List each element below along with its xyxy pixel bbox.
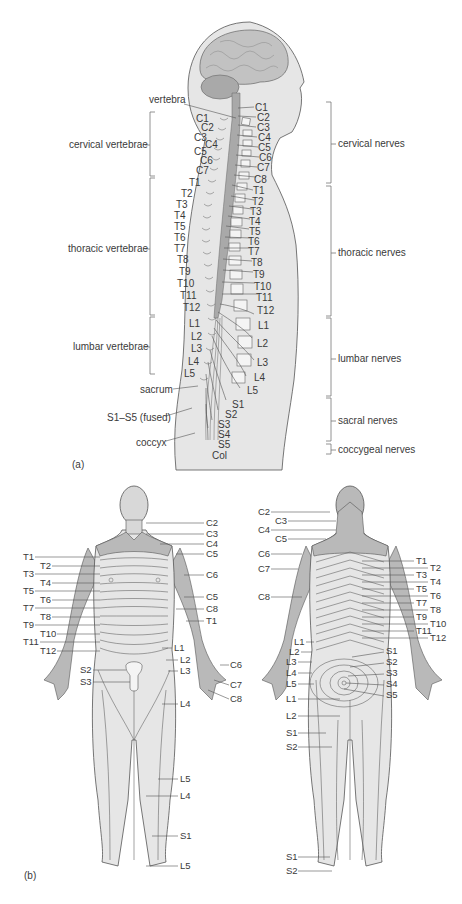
svg-text:L2: L2: [257, 338, 269, 349]
svg-text:T12: T12: [40, 645, 56, 656]
svg-text:T1: T1: [23, 551, 34, 562]
svg-text:S1: S1: [386, 645, 398, 656]
svg-text:T6: T6: [174, 232, 186, 243]
svg-text:T6: T6: [40, 594, 51, 605]
svg-text:C8: C8: [254, 174, 267, 185]
svg-text:L2: L2: [180, 654, 191, 665]
fused-sacrum-label: S1–S5 (fused): [107, 412, 171, 423]
svg-text:T10: T10: [40, 628, 56, 639]
svg-text:T11: T11: [256, 292, 273, 303]
dermatome-figure: C1C2 C3C4 C5C6 C7T1 T2T3 T4T5 T6T7 T8T9 …: [0, 0, 462, 904]
svg-text:L5: L5: [180, 860, 191, 871]
cervical-nerves-label: cervical nerves: [338, 138, 405, 149]
thoracic-nerves-label: thoracic nerves: [338, 247, 406, 258]
svg-text:T7: T7: [23, 602, 34, 613]
svg-text:T8: T8: [430, 604, 441, 615]
svg-text:L2: L2: [191, 331, 203, 342]
panel-b-back-view: C2 C3 C4 C5 C6 C7 C8 L1 L2 L3 L4 L5 L1 L…: [258, 486, 446, 876]
svg-text:T7: T7: [416, 597, 427, 608]
svg-text:S4: S4: [386, 678, 398, 689]
svg-text:L4: L4: [286, 667, 297, 678]
svg-text:L3: L3: [286, 656, 297, 667]
svg-text:S3: S3: [80, 676, 92, 687]
svg-text:T10: T10: [177, 278, 195, 289]
nerve-brackets: [326, 102, 336, 454]
svg-text:S1: S1: [286, 727, 298, 738]
lumbar-nerves-label: lumbar nerves: [338, 353, 401, 364]
svg-text:T2: T2: [430, 562, 441, 573]
svg-text:S2: S2: [286, 741, 298, 752]
svg-text:T4: T4: [430, 576, 441, 587]
svg-text:T5: T5: [416, 583, 427, 594]
svg-text:Col: Col: [212, 450, 227, 461]
thoracic-vertebrae-label: thoracic vertebrae: [68, 243, 148, 254]
svg-text:L3: L3: [180, 665, 191, 676]
svg-text:C7: C7: [230, 679, 242, 690]
svg-text:C7: C7: [258, 563, 270, 574]
svg-text:T11: T11: [180, 290, 197, 301]
svg-text:S3: S3: [386, 667, 398, 678]
svg-text:L1: L1: [189, 318, 201, 329]
svg-text:L4: L4: [254, 372, 266, 383]
svg-text:T1: T1: [206, 615, 217, 626]
svg-text:C4: C4: [258, 524, 270, 535]
svg-text:S2: S2: [286, 865, 298, 876]
svg-text:L3: L3: [257, 357, 269, 368]
svg-text:C5: C5: [206, 591, 218, 602]
sacral-nerves-label: sacral nerves: [338, 415, 397, 426]
svg-text:S1: S1: [180, 830, 192, 841]
panel-b-caption: (b): [24, 870, 36, 881]
svg-text:T9: T9: [179, 266, 191, 277]
svg-text:S5: S5: [218, 439, 231, 450]
svg-text:T8: T8: [40, 611, 51, 622]
svg-text:C7: C7: [257, 162, 270, 173]
sacrum-label: sacrum: [140, 384, 173, 395]
svg-text:T3: T3: [176, 199, 188, 210]
svg-text:T1: T1: [189, 177, 201, 188]
svg-text:T9: T9: [23, 619, 34, 630]
svg-text:S1: S1: [286, 851, 298, 862]
svg-text:C6: C6: [206, 569, 218, 580]
svg-text:L5: L5: [184, 368, 196, 379]
svg-text:S2: S2: [80, 664, 92, 675]
svg-text:T5: T5: [174, 221, 186, 232]
svg-text:S5: S5: [386, 689, 398, 700]
svg-text:S2: S2: [386, 656, 398, 667]
vertebra-label: vertebra: [149, 94, 186, 105]
svg-text:T8: T8: [177, 254, 189, 265]
svg-text:C6: C6: [230, 659, 242, 670]
svg-text:C4: C4: [205, 139, 218, 150]
svg-text:T10: T10: [430, 618, 446, 629]
svg-text:C8: C8: [206, 603, 218, 614]
svg-text:T12: T12: [183, 302, 201, 313]
coccyx-label: coccyx: [136, 437, 167, 448]
svg-text:T3: T3: [416, 569, 427, 580]
svg-text:L5: L5: [247, 385, 259, 396]
svg-text:C3: C3: [275, 515, 287, 526]
svg-text:T9: T9: [416, 611, 427, 622]
back-neck-bands: [312, 502, 388, 556]
svg-text:T5: T5: [23, 585, 34, 596]
svg-text:C8: C8: [258, 591, 270, 602]
svg-text:C8: C8: [230, 693, 242, 704]
panel-a-caption: (a): [72, 459, 84, 470]
svg-text:T2: T2: [181, 188, 193, 199]
svg-text:L5: L5: [180, 773, 191, 784]
svg-text:T8: T8: [251, 257, 263, 268]
lumbar-vertebrae-label: lumbar vertebrae: [73, 341, 149, 352]
front-neck: [126, 520, 142, 534]
panel-b-front-view: C2 C3 C4 C5 C6 C5 C8 T1 L1 L2 L3 L4 L5 L…: [23, 486, 242, 881]
svg-text:L1: L1: [286, 693, 297, 704]
cervical-vertebrae-label: cervical vertebrae: [69, 139, 148, 150]
svg-text:T12: T12: [257, 305, 275, 316]
svg-text:T11: T11: [23, 636, 39, 647]
svg-text:T3: T3: [23, 568, 34, 579]
svg-text:C7: C7: [196, 165, 209, 176]
svg-text:T6: T6: [430, 590, 441, 601]
svg-text:L3: L3: [191, 343, 203, 354]
svg-text:C5: C5: [206, 548, 218, 559]
front-head: [120, 486, 148, 524]
svg-text:C6: C6: [258, 548, 270, 559]
svg-text:C2: C2: [206, 517, 218, 528]
svg-text:L4: L4: [180, 790, 191, 801]
